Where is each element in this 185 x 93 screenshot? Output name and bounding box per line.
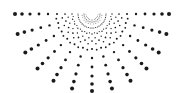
dot bbox=[101, 31, 102, 32]
dot bbox=[84, 26, 85, 27]
dot bbox=[88, 20, 89, 21]
dot bbox=[98, 14, 99, 15]
dot bbox=[98, 18, 99, 19]
dot bbox=[80, 22, 81, 23]
dot bbox=[103, 22, 104, 23]
dot bbox=[87, 17, 88, 18]
dot bbox=[82, 23, 83, 24]
dot bbox=[79, 55, 81, 57]
dot bbox=[55, 73, 59, 77]
dot bbox=[93, 27, 94, 28]
dot bbox=[108, 80, 112, 84]
dot bbox=[71, 13, 72, 14]
dot bbox=[100, 14, 101, 15]
dot bbox=[84, 39, 86, 41]
dot bbox=[57, 22, 59, 24]
dot bbox=[84, 31, 85, 32]
dot bbox=[52, 79, 56, 83]
dot bbox=[85, 18, 86, 19]
dot bbox=[92, 20, 93, 21]
dot bbox=[98, 26, 99, 27]
dot bbox=[91, 40, 93, 42]
dot bbox=[64, 59, 67, 62]
dot bbox=[150, 28, 153, 31]
dot bbox=[105, 15, 106, 16]
dot bbox=[88, 23, 89, 24]
dot bbox=[110, 16, 111, 17]
dot bbox=[124, 27, 126, 29]
dot bbox=[94, 32, 95, 33]
dot bbox=[78, 17, 79, 18]
dot bbox=[20, 12, 24, 16]
dot bbox=[109, 43, 111, 45]
dot bbox=[140, 62, 144, 66]
dot bbox=[110, 86, 114, 90]
dot bbox=[90, 82, 94, 86]
dot bbox=[91, 57, 93, 59]
dot bbox=[95, 23, 96, 24]
dot bbox=[144, 13, 147, 16]
dot bbox=[125, 22, 127, 24]
dot bbox=[111, 18, 112, 19]
dot bbox=[101, 17, 102, 18]
dot bbox=[83, 25, 84, 26]
dot bbox=[105, 17, 106, 18]
dot bbox=[23, 51, 27, 55]
dot bbox=[115, 27, 117, 29]
dot bbox=[65, 20, 67, 22]
dot bbox=[82, 17, 83, 18]
dot bbox=[28, 12, 31, 15]
dot bbox=[126, 13, 128, 15]
dot bbox=[109, 21, 110, 22]
dot bbox=[69, 22, 70, 23]
dot bbox=[151, 47, 155, 51]
dot bbox=[86, 26, 87, 27]
dot bbox=[74, 21, 75, 22]
dot bbox=[115, 16, 116, 17]
dot bbox=[110, 28, 111, 29]
dot bbox=[47, 56, 50, 59]
dot bbox=[47, 13, 49, 15]
dot bbox=[115, 31, 117, 33]
dot bbox=[16, 32, 20, 36]
dot bbox=[97, 26, 98, 27]
dot bbox=[88, 18, 89, 19]
dot bbox=[117, 20, 119, 22]
dot bbox=[110, 32, 112, 34]
dot bbox=[91, 48, 93, 50]
dot bbox=[67, 31, 69, 33]
dot bbox=[111, 13, 112, 14]
dot bbox=[63, 35, 65, 37]
dot bbox=[68, 16, 69, 17]
dot bbox=[106, 25, 107, 26]
dot bbox=[134, 56, 137, 59]
dot bbox=[31, 28, 34, 31]
dot bbox=[69, 42, 71, 44]
dot bbox=[104, 64, 107, 67]
dot bbox=[105, 46, 107, 48]
dot bbox=[77, 46, 79, 48]
dot bbox=[77, 27, 78, 28]
dot bbox=[53, 35, 55, 37]
dot bbox=[133, 24, 135, 26]
dot bbox=[41, 62, 45, 66]
dot bbox=[100, 25, 101, 26]
dot bbox=[160, 12, 164, 16]
dot bbox=[98, 39, 100, 41]
dot bbox=[38, 13, 41, 16]
radial-dots-logo-icon bbox=[0, 0, 185, 93]
dot bbox=[89, 21, 90, 22]
dot bbox=[88, 37, 89, 38]
dot bbox=[144, 66, 148, 70]
dot bbox=[104, 20, 105, 21]
dot bbox=[95, 18, 96, 19]
dot bbox=[99, 16, 100, 17]
dot bbox=[81, 31, 82, 32]
dot bbox=[129, 79, 133, 83]
dot bbox=[97, 19, 98, 20]
dot bbox=[61, 31, 63, 33]
dot bbox=[86, 33, 87, 34]
dot bbox=[100, 47, 102, 49]
dot bbox=[120, 35, 122, 37]
dot bbox=[89, 19, 90, 20]
